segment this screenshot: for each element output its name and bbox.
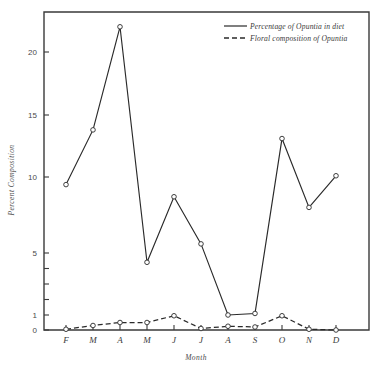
x-tick-label-6: A [224, 335, 231, 345]
data-point [91, 128, 96, 133]
data-point [64, 182, 69, 187]
x-tick-label-3: M [142, 335, 151, 345]
data-point [145, 320, 150, 325]
data-point [226, 324, 231, 329]
plot-frame [44, 12, 369, 330]
legend: Percentage of Opuntia in diet Floral com… [224, 22, 347, 43]
data-point [118, 320, 123, 325]
y-tick-label-10: 10 [28, 173, 37, 182]
data-point [253, 325, 258, 330]
y-tick-label-20: 20 [28, 48, 37, 57]
data-point [172, 194, 177, 199]
y-tick-label-5: 5 [33, 249, 38, 258]
data-point [307, 205, 312, 210]
data-point [280, 136, 285, 141]
x-axis-title: Month [184, 353, 207, 362]
data-point [226, 313, 231, 318]
x-tick-label-4: J [172, 335, 177, 345]
x-tick-label-5: J [199, 335, 204, 345]
x-tick-label-10: D [332, 335, 340, 345]
data-point [280, 313, 285, 318]
x-tick-label-0: F [62, 335, 69, 345]
data-point [199, 242, 204, 247]
data-point [118, 25, 123, 30]
y-axis-title: Percent Composition [7, 145, 16, 217]
data-point [64, 327, 69, 332]
x-tick-label-7: S [253, 335, 258, 345]
series-line-diet [66, 27, 336, 315]
data-point [253, 311, 258, 316]
x-tick-label-8: O [279, 335, 286, 345]
legend-label-floral: Floral composition of Opuntia [249, 34, 347, 43]
legend-label-diet: Percentage of Opuntia in diet [249, 22, 345, 31]
data-point [91, 323, 96, 328]
x-tick-label-2: A [116, 335, 123, 345]
y-axis-ticks: 015101520 [28, 48, 49, 335]
data-point [334, 173, 339, 178]
data-point [172, 313, 177, 318]
y-tick-label-1: 1 [33, 311, 38, 320]
y-tick-label-15: 15 [28, 111, 37, 120]
data-point [334, 328, 339, 333]
x-tick-label-9: N [305, 335, 313, 345]
chart-figure: 015101520 FMAMJJASOND Percentage of Opun… [0, 0, 375, 369]
frame-border [44, 12, 369, 330]
x-tick-label-1: M [88, 335, 97, 345]
y-tick-label-0: 0 [33, 326, 38, 335]
line-chart: 015101520 FMAMJJASOND Percentage of Opun… [0, 0, 375, 369]
data-point [307, 327, 312, 332]
data-series-layer [64, 25, 339, 333]
data-point [199, 326, 204, 331]
data-point [145, 260, 150, 265]
